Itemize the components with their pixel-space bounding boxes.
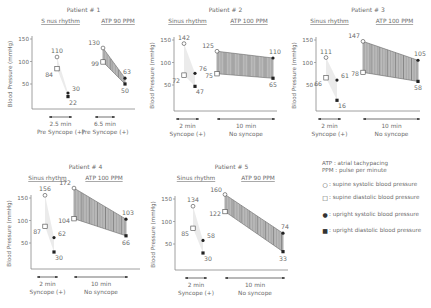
y-tick-label: 100 — [17, 218, 28, 224]
open-square-icon: □ — [322, 194, 328, 201]
sinus-supine-diastolic-marker — [55, 67, 59, 71]
value-label: 84 — [45, 71, 53, 78]
chart-title: Patient # 1 — [67, 6, 101, 13]
sinus-supine-diastolic-marker — [43, 224, 47, 228]
y-axis-label: Blood Pressure (mmHg) — [291, 42, 298, 108]
legend-item-supine-systolic: ○ : supine systolic blood pressure — [322, 181, 431, 188]
y-tick-label: 150 — [17, 195, 28, 201]
legend-abbrev-ppm: PPM : pulse per minute — [322, 167, 431, 174]
phase-label-sinus: Sinus rhythm — [177, 175, 216, 182]
y-tick-label: 50 — [165, 241, 173, 247]
value-label: 122 — [209, 210, 221, 217]
atp-supine-diastolic-marker — [215, 72, 219, 76]
chart-title: Patient # 2 — [209, 6, 243, 13]
value-label: 78 — [351, 70, 359, 77]
value-label: 61 — [341, 72, 349, 79]
y-tick-label: 100 — [302, 60, 313, 66]
duration-label-atp: 6.5 min — [94, 121, 116, 127]
chart-patient-4: Patient # 4Sinus rhythmATP 100 PPM501001… — [6, 163, 140, 296]
sinus-supine-systolic-marker — [55, 55, 59, 59]
outcome-label-atp: No syncope — [229, 131, 263, 138]
atp-upright-systolic-marker — [416, 59, 419, 62]
atp-supine-diastolic-marker — [361, 70, 365, 74]
atp-upright-systolic-marker — [281, 232, 284, 235]
value-label: 110 — [269, 48, 281, 55]
outcome-label-sinus: Syncope (+) — [178, 290, 214, 297]
atp-supine-systolic-marker — [72, 186, 76, 190]
open-circle-icon: ○ — [322, 181, 328, 188]
y-tick-label: 100 — [18, 59, 29, 65]
duration-label-atp: 10 min — [245, 282, 265, 288]
duration-label-atp: 10 min — [91, 281, 111, 287]
sinus-band — [57, 57, 68, 97]
value-label: 66 — [122, 239, 130, 246]
sinus-supine-systolic-marker — [182, 42, 186, 46]
y-tick-label: 100 — [160, 60, 171, 66]
duration-label-atp: 10 min — [236, 123, 256, 129]
y-tick-label: 100 — [161, 219, 172, 225]
chart-patient-1: Patient # 1S nus rhythmATP 90 PPM5010015… — [7, 6, 135, 136]
value-label: 33 — [279, 255, 287, 262]
chart-title: Patient # 4 — [69, 163, 103, 170]
sinus-supine-systolic-marker — [43, 193, 47, 197]
filled-square-icon: ■ — [322, 227, 328, 234]
sinus-supine-diastolic-marker — [324, 76, 328, 80]
atp-upright-diastolic-marker — [124, 234, 127, 237]
value-label: 111 — [320, 48, 332, 55]
outcome-label-sinus: Syncope (+) — [30, 289, 66, 296]
y-axis-label: Blood Pressure (mmHg) — [149, 42, 156, 108]
value-label: 147 — [348, 32, 360, 39]
chart-patient-2: Patient # 2Sinus rhythmATP 100 PPM501001… — [149, 6, 281, 138]
atp-upright-systolic-marker — [124, 218, 127, 221]
value-label: 160 — [210, 186, 222, 193]
sinus-upright-systolic-marker — [335, 78, 338, 81]
phase-label-sinus: S nus rhythm — [41, 18, 80, 25]
chart-title: Patient # 5 — [215, 163, 249, 170]
sinus-supine-systolic-marker — [191, 204, 195, 208]
atp-supine-systolic-marker — [361, 39, 365, 43]
value-label: 110 — [51, 47, 63, 54]
value-label: 65 — [269, 81, 277, 88]
blood-pressure-charts: Patient # 1S nus rhythmATP 90 PPM5010015… — [0, 0, 431, 308]
y-axis-label: Blood Pressure (mmHg) — [7, 41, 14, 107]
y-tick-label: 50 — [21, 240, 29, 246]
sinus-band — [45, 195, 54, 252]
phase-label-atp: ATP 100 PPM — [85, 175, 122, 181]
value-label: 85 — [181, 230, 189, 237]
duration-label-sinus: 2 min — [179, 123, 196, 129]
atp-upright-diastolic-marker — [281, 250, 284, 253]
duration-label-sinus: 2 min — [188, 282, 205, 288]
value-label: 30 — [204, 255, 212, 262]
sinus-supine-diastolic-marker — [191, 226, 195, 230]
legend-label: : supine diastolic blood pressure — [329, 194, 419, 201]
legend-label: : upright diastolic blood pressure — [329, 227, 421, 234]
outcome-label-atp: No syncope — [84, 289, 118, 296]
outcome-label-sinus: Syncope (+) — [312, 131, 348, 138]
sinus-upright-systolic-marker — [201, 239, 204, 242]
y-tick-label: 150 — [302, 37, 313, 43]
chart-patient-5: Patient # 5Sinus rhythmATP 90 PPM5010015… — [150, 163, 289, 297]
sinus-band — [184, 44, 195, 87]
duration-label-sinus: 2 min — [321, 123, 338, 129]
legend-label: : supine systolic blood pressure — [329, 181, 417, 188]
value-label: 30 — [55, 254, 63, 261]
value-label: 72 — [172, 77, 180, 84]
atp-supine-diastolic-marker — [101, 60, 105, 64]
atp-upright-systolic-marker — [271, 56, 274, 59]
sinus-supine-systolic-marker — [324, 56, 328, 60]
value-label: 156 — [39, 185, 51, 192]
phase-label-atp: ATP 90 PPM — [241, 175, 275, 181]
phase-label-sinus: Sinus rhythm — [310, 18, 349, 25]
outcome-label-atp: Pre Syncope (+) — [81, 129, 128, 136]
y-tick-label: 50 — [306, 82, 314, 88]
value-label: 66 — [314, 80, 322, 87]
atp-upright-systolic-marker — [123, 77, 126, 80]
value-label: 58 — [207, 232, 215, 239]
outcome-label-sinus: Syncope (+) — [170, 131, 206, 138]
atp-upright-diastolic-marker — [416, 80, 419, 83]
duration-label-sinus: 2.5 min — [50, 121, 72, 127]
value-label: 142 — [178, 34, 190, 41]
atp-supine-systolic-marker — [223, 193, 227, 197]
value-label: 22 — [69, 99, 77, 106]
sinus-supine-diastolic-marker — [182, 73, 186, 77]
